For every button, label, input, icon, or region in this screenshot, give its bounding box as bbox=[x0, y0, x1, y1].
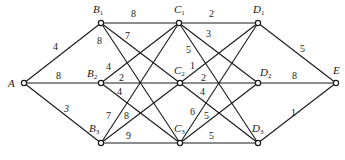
edge-weight-A-B3: 3 bbox=[63, 103, 69, 114]
node-label-C2: C2 bbox=[174, 64, 185, 78]
edge-weight-B1-C2: 7 bbox=[125, 30, 130, 41]
edge-weight-C1-D2: 3 bbox=[206, 28, 211, 39]
edge-weight-C3-D1: 6 bbox=[190, 106, 195, 117]
edge-weight-C2-D2: 2 bbox=[201, 72, 206, 83]
node-B3 bbox=[98, 140, 103, 145]
edge-weight-B3-C1: 7 bbox=[106, 110, 111, 121]
node-label-B1: B1 bbox=[93, 3, 104, 17]
edge-A-B3 bbox=[24, 83, 101, 143]
edge-weight-C3-D3: 5 bbox=[209, 130, 214, 141]
edge-weight-B1-C1: 8 bbox=[131, 8, 136, 19]
edge-weight-C3-D2: 5 bbox=[204, 110, 209, 121]
edge-weight-B3-C2: 8 bbox=[124, 110, 129, 121]
node-D2 bbox=[255, 80, 260, 85]
edge-weight-B2-C1: 4 bbox=[106, 61, 111, 72]
node-C2 bbox=[177, 80, 182, 85]
edge-weight-B3-C3: 9 bbox=[126, 130, 131, 141]
node-label-E: E bbox=[332, 64, 340, 76]
node-label-D3: D3 bbox=[251, 122, 264, 136]
node-B2 bbox=[98, 80, 103, 85]
edge-weight-D1-E: 5 bbox=[300, 43, 305, 54]
node-A bbox=[21, 80, 26, 85]
node-D1 bbox=[255, 20, 260, 25]
edge-weight-B2-C3: 4 bbox=[117, 86, 122, 97]
edge-weight-C1-D1: 2 bbox=[209, 8, 214, 19]
node-label-C3: C3 bbox=[174, 122, 185, 136]
node-label-D2: D2 bbox=[259, 66, 272, 80]
edge-weight-C1-D3: 5 bbox=[186, 44, 191, 55]
node-E bbox=[333, 80, 338, 85]
node-D3 bbox=[255, 140, 260, 145]
node-B1 bbox=[98, 20, 103, 25]
weighted-graph-diagram: 483878424789235124655581 AB1B2B3C1C2C3D1… bbox=[0, 0, 345, 160]
edge-weight-B2-C2: 2 bbox=[119, 72, 124, 83]
edge-weight-C2-D1: 1 bbox=[190, 60, 195, 71]
edge-weight-B1-C3: 8 bbox=[97, 35, 102, 46]
edge-weight-A-B1: 4 bbox=[53, 41, 58, 52]
node-label-A: A bbox=[7, 77, 15, 89]
node-label-C1: C1 bbox=[174, 3, 185, 17]
edge-weight-D2-E: 8 bbox=[292, 70, 297, 81]
node-label-D1: D1 bbox=[252, 3, 265, 17]
edge-weight-D3-E: 1 bbox=[291, 107, 296, 118]
edge-weight-A-B2: 8 bbox=[56, 70, 61, 81]
edge-weight-C2-D3: 4 bbox=[200, 86, 205, 97]
node-label-B3: B3 bbox=[89, 122, 100, 136]
node-label-B2: B2 bbox=[87, 67, 98, 81]
edge-D3-E bbox=[258, 83, 336, 143]
node-C1 bbox=[176, 20, 181, 25]
node-C3 bbox=[177, 140, 182, 145]
